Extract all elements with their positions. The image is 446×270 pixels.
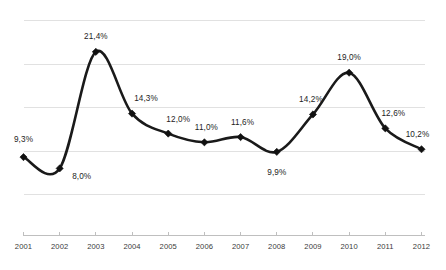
data-point-2007[interactable] [237, 133, 244, 140]
x-tick-label-2003: 2003 [87, 242, 104, 251]
x-axis [24, 232, 425, 236]
gridlines [24, 21, 425, 195]
value-label-2007: 11,6% [231, 118, 254, 127]
series-line-unemployment [24, 51, 422, 174]
value-label-2005: 12,0% [166, 115, 190, 124]
value-label-2011: 12,6% [381, 109, 405, 118]
value-label-2002: 8,0% [72, 172, 91, 181]
value-label-2004: 14,3% [134, 94, 158, 103]
x-tick-label-2007: 2007 [232, 242, 249, 251]
data-point-markers [20, 48, 425, 172]
x-tick-label-2011: 2011 [377, 242, 394, 251]
line-chart: 2001200220032004200520062007200820092010… [0, 0, 446, 270]
x-tick-label-2006: 2006 [196, 242, 213, 251]
value-label-2003: 21,4% [84, 32, 108, 41]
x-tick-label-2009: 2009 [304, 242, 321, 251]
value-label-2012: 10,2% [406, 130, 430, 139]
x-tick-label-2004: 2004 [123, 242, 140, 251]
data-point-2006[interactable] [201, 139, 208, 146]
value-label-2008: 9,9% [267, 168, 286, 177]
value-label-2001: 9,3% [14, 135, 33, 144]
data-point-2008[interactable] [273, 148, 280, 155]
x-tick-label-2002: 2002 [51, 242, 68, 251]
plot-area [0, 0, 446, 270]
x-tick-label-2005: 2005 [160, 242, 177, 251]
value-label-2009: 14,2% [299, 95, 323, 104]
value-label-2010: 19,0% [337, 53, 361, 62]
x-tick-label-2012: 2012 [413, 242, 430, 251]
x-tick-label-2010: 2010 [340, 242, 357, 251]
x-tick-label-2001: 2001 [15, 242, 32, 251]
x-tick-label-2008: 2008 [268, 242, 285, 251]
data-point-2005[interactable] [165, 130, 172, 137]
value-label-2006: 11,0% [195, 123, 218, 132]
